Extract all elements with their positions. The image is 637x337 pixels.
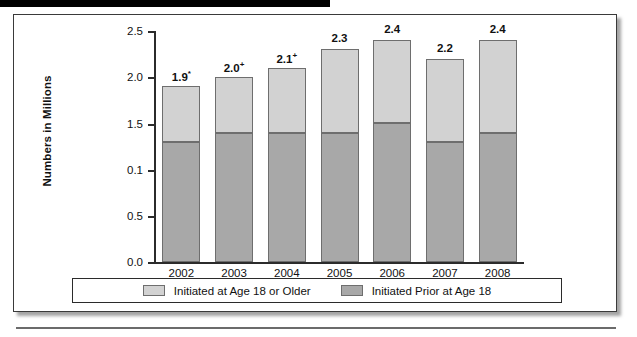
legend-item-initiated-18-or-older: Initiated at Age 18 or Older <box>143 285 311 297</box>
bar-group[interactable] <box>426 59 464 262</box>
bar-group[interactable] <box>479 40 517 262</box>
bar-segment-initiated-prior-18[interactable] <box>373 123 411 262</box>
bar-segment-initiated-18-or-older[interactable] <box>373 40 411 123</box>
y-tick-label: 0.1 <box>109 164 143 176</box>
y-axis-title: Numbers in Millions <box>41 46 53 216</box>
bar-segment-initiated-18-or-older[interactable] <box>268 68 306 133</box>
bar-group[interactable] <box>215 77 253 262</box>
y-tick-mark <box>148 216 154 218</box>
bar-value-label: 2.2 <box>415 42 475 54</box>
bar-segment-initiated-18-or-older[interactable] <box>321 49 359 132</box>
scan-artifact-top-bar <box>0 0 330 7</box>
bar-value-marker: + <box>240 60 245 69</box>
y-tick-label: 2.0 <box>109 71 143 83</box>
bar-value-marker: * <box>188 69 191 78</box>
bar-group[interactable] <box>373 40 411 262</box>
legend-item-initiated-prior-18: Initiated Prior at Age 18 <box>341 285 492 297</box>
scan-artifact-bottom-rule <box>16 327 616 329</box>
figure-frame: Numbers in Millions 2.5 2.0 1.5 0.1 0.5 … <box>13 14 617 312</box>
bar-value-label: 2.1+ <box>257 51 317 65</box>
bar-value-label: 2.3 <box>310 32 370 44</box>
bar-value-label: 2.4 <box>362 23 422 35</box>
bar-segment-initiated-18-or-older[interactable] <box>426 59 464 142</box>
legend-swatch-icon <box>143 285 165 296</box>
y-tick-label: 1.5 <box>109 118 143 130</box>
legend-label: Initiated at Age 18 or Older <box>174 285 311 297</box>
bar-value-marker: + <box>292 51 297 60</box>
y-tick-label: 2.5 <box>109 25 143 37</box>
y-axis-tick-labels: 2.5 2.0 1.5 0.1 0.5 0.0 <box>109 15 143 265</box>
legend-swatch-icon <box>341 285 363 296</box>
y-tick-mark <box>148 170 154 172</box>
bar-value-label: 2.4 <box>468 23 528 35</box>
bars-layer: 1.9*2.0+2.1+2.32.42.22.4 <box>155 15 524 263</box>
bar-segment-initiated-prior-18[interactable] <box>479 133 517 262</box>
bar-group[interactable] <box>321 49 359 262</box>
y-tick-mark <box>148 262 154 264</box>
bar-segment-initiated-prior-18[interactable] <box>268 133 306 262</box>
bar-group[interactable] <box>268 68 306 262</box>
y-tick-mark <box>148 31 154 33</box>
bar-segment-initiated-prior-18[interactable] <box>426 142 464 262</box>
bar-segment-initiated-18-or-older[interactable] <box>215 77 253 132</box>
legend-label: Initiated Prior at Age 18 <box>372 285 492 297</box>
bar-segment-initiated-18-or-older[interactable] <box>162 86 200 141</box>
bar-group[interactable] <box>162 86 200 262</box>
bar-segment-initiated-prior-18[interactable] <box>321 133 359 262</box>
bar-value-label: 2.0+ <box>204 60 264 74</box>
bar-value-label: 1.9* <box>151 69 211 83</box>
y-tick-label: 0.5 <box>109 210 143 222</box>
chart-legend: Initiated at Age 18 or Older Initiated P… <box>72 278 562 303</box>
y-tick-label: 0.0 <box>109 256 143 268</box>
bar-segment-initiated-18-or-older[interactable] <box>479 40 517 132</box>
y-tick-mark <box>148 124 154 126</box>
stacked-bar-chart: Numbers in Millions 2.5 2.0 1.5 0.1 0.5 … <box>14 15 618 313</box>
plot-area: Numbers in Millions 2.5 2.0 1.5 0.1 0.5 … <box>14 15 618 265</box>
bar-segment-initiated-prior-18[interactable] <box>162 142 200 262</box>
bar-segment-initiated-prior-18[interactable] <box>215 133 253 262</box>
